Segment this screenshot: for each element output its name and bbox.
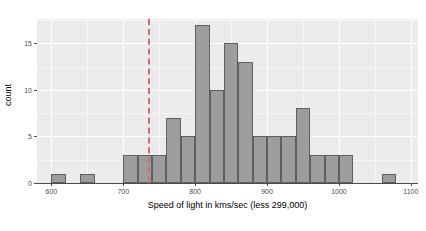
histogram-bar — [325, 155, 339, 183]
x-axis-tick-label: 1000 — [331, 188, 347, 195]
x-axis-tick — [411, 183, 412, 186]
x-axis-tick — [267, 183, 268, 186]
y-axis-tick — [34, 90, 37, 91]
histogram-bar — [195, 25, 209, 183]
y-axis-tick-label: 10 — [24, 86, 32, 93]
histogram-bar — [80, 174, 94, 183]
histogram-bar — [51, 174, 65, 183]
histogram-bar — [166, 118, 180, 183]
histogram-bar — [152, 155, 166, 183]
gridline-y-minor — [37, 20, 418, 21]
gridline-x-major — [51, 19, 52, 183]
histogram-bar — [281, 136, 295, 183]
y-axis-tick — [34, 43, 37, 44]
histogram-figure: Speed of light in kms/sec (less 299,000)… — [0, 0, 426, 231]
histogram-bar — [224, 43, 238, 183]
x-axis-tick-label: 900 — [261, 188, 273, 195]
histogram-bar — [296, 108, 310, 183]
histogram-bar — [253, 136, 267, 183]
y-axis-tick — [34, 136, 37, 137]
x-axis-tick — [123, 183, 124, 186]
x-axis-line — [37, 183, 418, 184]
x-axis-tick-label: 700 — [117, 188, 129, 195]
x-axis-tick-label: 800 — [189, 188, 201, 195]
histogram-bar — [181, 136, 195, 183]
gridline-x-minor — [87, 19, 88, 183]
y-axis-tick-label: 5 — [28, 133, 32, 140]
x-axis-label: Speed of light in kms/sec (less 299,000) — [37, 200, 418, 210]
y-axis-label: count — [3, 65, 13, 125]
histogram-bar — [238, 62, 252, 183]
histogram-bar — [210, 90, 224, 183]
x-axis-tick — [51, 183, 52, 186]
y-axis-tick-label: 15 — [24, 40, 32, 47]
histogram-bar — [310, 155, 324, 183]
x-axis-tick-label: 600 — [46, 188, 58, 195]
histogram-bar — [382, 174, 396, 183]
y-axis-tick — [34, 183, 37, 184]
histogram-bar — [123, 155, 137, 183]
reference-line — [148, 19, 150, 183]
histogram-bar — [339, 155, 353, 183]
histogram-bar — [267, 136, 281, 183]
plot-panel — [37, 19, 418, 183]
y-axis-tick-label: 0 — [28, 180, 32, 187]
x-axis-tick — [195, 183, 196, 186]
x-axis-tick-label: 1100 — [403, 188, 418, 195]
gridline-x-major — [411, 19, 412, 183]
gridline-x-minor — [375, 19, 376, 183]
x-axis-tick — [339, 183, 340, 186]
